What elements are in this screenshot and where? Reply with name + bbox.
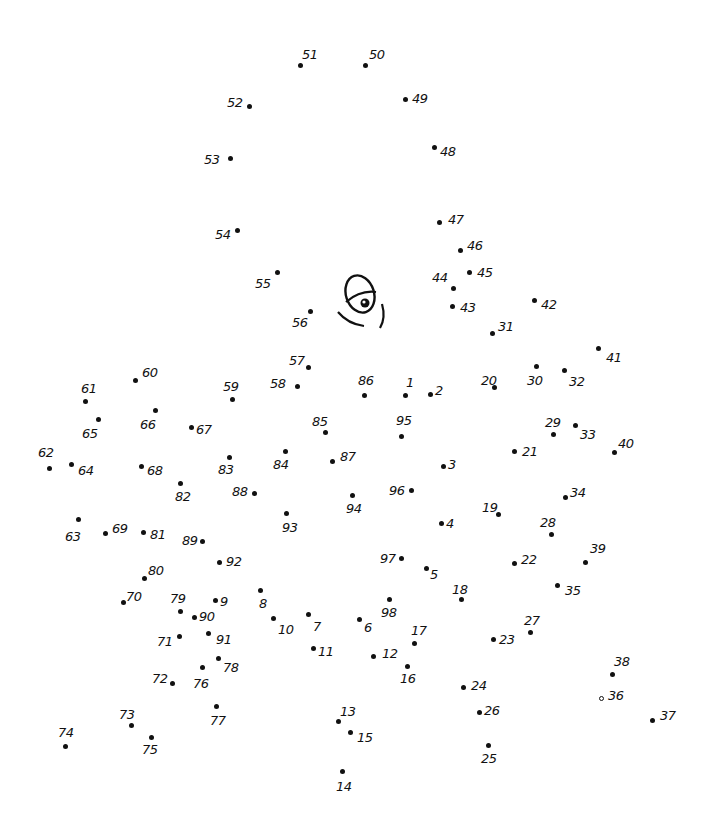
dot-label: 12 <box>382 647 398 660</box>
dot-7 <box>306 612 311 617</box>
dot-39 <box>583 560 588 565</box>
dot-3 <box>441 464 446 469</box>
dot-13 <box>336 719 341 724</box>
dot-label: 6 <box>364 621 372 634</box>
dot-label: 58 <box>270 377 286 390</box>
dot-57 <box>306 365 311 370</box>
dot-label: 43 <box>460 301 476 314</box>
dot-label: 61 <box>81 382 97 395</box>
dot-label: 1 <box>406 376 414 389</box>
dot-94 <box>350 493 355 498</box>
dot-74 <box>63 744 68 749</box>
dot-60 <box>133 378 138 383</box>
dot-8 <box>258 588 263 593</box>
dot-label: 55 <box>255 277 271 290</box>
dot-71 <box>177 634 182 639</box>
dot-label: 3 <box>448 458 456 471</box>
dot-4 <box>439 521 444 526</box>
dot-label: 10 <box>278 623 294 636</box>
dot-45 <box>467 270 472 275</box>
dot-label: 64 <box>78 464 94 477</box>
dot-label: 90 <box>199 610 215 623</box>
dot-38 <box>610 672 615 677</box>
dot-label: 96 <box>389 484 405 497</box>
dot-label: 41 <box>606 351 622 364</box>
dot-79 <box>178 609 183 614</box>
dot-82 <box>178 481 183 486</box>
dot-label: 89 <box>182 534 198 547</box>
dot-label: 59 <box>223 380 239 393</box>
dot-30 <box>534 364 539 369</box>
dot-label: 33 <box>580 428 596 441</box>
dot-90 <box>192 615 197 620</box>
dot-77 <box>214 704 219 709</box>
dot-label: 88 <box>232 485 248 498</box>
dot-34 <box>563 495 568 500</box>
dot-label: 11 <box>318 645 334 658</box>
dot-label: 54 <box>215 228 231 241</box>
eye-icon <box>330 268 394 332</box>
dot-label: 82 <box>175 490 191 503</box>
dot-label: 40 <box>618 437 634 450</box>
dot-48 <box>432 145 437 150</box>
dot-label: 97 <box>380 552 396 565</box>
dot-25 <box>486 743 491 748</box>
dot-label: 84 <box>273 458 289 471</box>
dot-85 <box>323 430 328 435</box>
dot-17 <box>412 641 417 646</box>
dot-6 <box>357 617 362 622</box>
dot-63 <box>76 517 81 522</box>
dot-32 <box>562 368 567 373</box>
dot-51 <box>298 63 303 68</box>
dot-12 <box>371 654 376 659</box>
dot-label: 68 <box>147 464 163 477</box>
dot-78 <box>216 656 221 661</box>
dot-label: 26 <box>484 704 500 717</box>
dot-15 <box>348 730 353 735</box>
dot-61 <box>83 399 88 404</box>
dot-75 <box>149 735 154 740</box>
dot-label: 69 <box>112 522 128 535</box>
dot-label: 30 <box>527 374 543 387</box>
dot-label: 87 <box>340 450 356 463</box>
dot-89 <box>200 539 205 544</box>
dot-label: 51 <box>302 48 318 61</box>
dot-label: 28 <box>540 516 556 529</box>
dot-22 <box>512 561 517 566</box>
dot-87 <box>330 459 335 464</box>
dot-label: 16 <box>400 672 416 685</box>
dot-28 <box>549 532 554 537</box>
dot-label: 63 <box>65 530 81 543</box>
dot-label: 47 <box>448 213 464 226</box>
dot-label: 78 <box>223 661 239 674</box>
dot-64 <box>69 462 74 467</box>
dot-to-dot-puzzle: 1234567891011121314151617181920212223242… <box>0 0 710 829</box>
dot-67 <box>189 425 194 430</box>
dot-label: 9 <box>220 595 228 608</box>
dot-label: 95 <box>396 414 412 427</box>
dot-36 <box>599 696 604 701</box>
dot-label: 13 <box>340 705 356 718</box>
dot-label: 48 <box>440 145 456 158</box>
dot-label: 2 <box>435 384 443 397</box>
dot-label: 27 <box>524 614 540 627</box>
dot-47 <box>437 220 442 225</box>
dot-18 <box>459 597 464 602</box>
dot-label: 94 <box>346 502 362 515</box>
dot-98 <box>387 597 392 602</box>
dot-label: 32 <box>569 375 585 388</box>
dot-69 <box>103 531 108 536</box>
dot-label: 50 <box>369 48 385 61</box>
dot-50 <box>363 63 368 68</box>
dot-label: 8 <box>259 597 267 610</box>
dot-62 <box>47 466 52 471</box>
dot-76 <box>200 665 205 670</box>
dot-label: 86 <box>358 374 374 387</box>
dot-label: 7 <box>313 620 321 633</box>
dot-label: 21 <box>522 445 538 458</box>
dot-41 <box>596 346 601 351</box>
dot-label: 74 <box>58 726 74 739</box>
dot-label: 34 <box>570 486 586 499</box>
dot-label: 4 <box>446 517 454 530</box>
dot-9 <box>213 598 218 603</box>
